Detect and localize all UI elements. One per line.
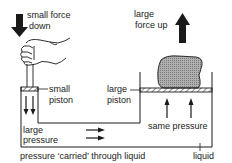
liquid-label: liquid <box>193 152 214 161</box>
pressure-arrows-down <box>24 96 36 115</box>
large-pressure-label-1: large <box>23 126 43 135</box>
load-block-icon <box>158 56 202 88</box>
small-piston-label-1: small <box>49 85 70 94</box>
large-force-label-2: force up <box>135 21 168 30</box>
small-force-label-1: small force <box>27 11 71 20</box>
arrow-up-icon <box>175 13 190 43</box>
same-pressure-label: same pressure <box>148 122 208 131</box>
large-piston <box>140 88 212 92</box>
pressure-carried-label: pressure ‘carried’ through liquid <box>20 152 145 161</box>
hand-pushing-icon <box>21 38 71 87</box>
pressure-arrows-right <box>86 128 105 141</box>
arrow-down-icon <box>11 14 28 37</box>
large-pressure-label-2: pressure <box>23 136 58 145</box>
large-force-label-1: large <box>134 10 154 19</box>
pressure-arrows-up <box>165 98 194 118</box>
small-force-label-2: down <box>29 22 51 31</box>
large-piston-label-1: large <box>107 85 127 94</box>
small-piston <box>21 87 38 91</box>
large-piston-label-2: piston <box>107 96 131 105</box>
hydraulic-diagram: small force down large force up small pi… <box>0 0 232 163</box>
small-piston-label-2: piston <box>49 96 73 105</box>
